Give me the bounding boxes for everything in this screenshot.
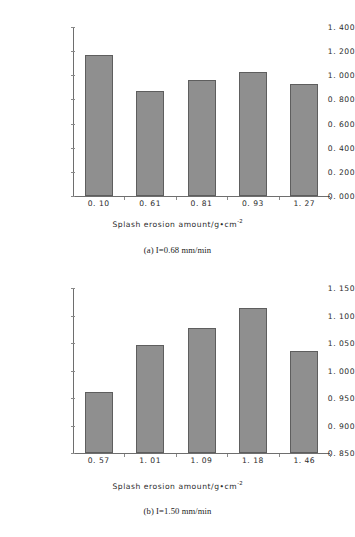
x-axis-title: Splash erosion amount/g•cm-2 xyxy=(0,480,355,491)
bar xyxy=(290,84,318,196)
y-tick-mark xyxy=(71,398,75,399)
bar xyxy=(239,72,267,196)
y-tick-label: 1. 200 xyxy=(290,47,355,56)
x-tick-mark xyxy=(330,454,331,457)
x-tick-label: 1. 27 xyxy=(293,199,315,208)
bar xyxy=(239,308,267,453)
y-tick-label: 1. 050 xyxy=(290,339,355,348)
panel-caption: (a) I=0.68 mm/min xyxy=(0,245,355,255)
y-tick-label: 1. 100 xyxy=(290,311,355,320)
bar xyxy=(136,91,164,196)
y-tick-mark xyxy=(71,27,75,28)
y-tick-mark xyxy=(71,453,75,454)
x-tick-mark xyxy=(279,197,280,200)
x-axis-title-superscript: -2 xyxy=(237,218,242,224)
x-tick-label: 1. 46 xyxy=(293,456,315,465)
x-axis-title-superscript: -2 xyxy=(237,480,242,486)
x-axis-title-text: Splash erosion amount/g•cm xyxy=(112,220,237,229)
x-tick-label: 1. 01 xyxy=(139,456,161,465)
x-tick-mark xyxy=(176,197,177,200)
bar xyxy=(85,392,113,453)
y-tick-mark xyxy=(71,75,75,76)
x-axis-title: Splash erosion amount/g•cm-2 xyxy=(0,218,355,229)
y-tick-mark xyxy=(71,316,75,317)
x-tick-mark xyxy=(330,197,331,200)
y-tick-mark xyxy=(71,172,75,173)
y-tick-mark xyxy=(71,196,75,197)
x-tick-mark xyxy=(279,454,280,457)
x-tick-label: 0. 57 xyxy=(88,456,110,465)
y-tick-mark xyxy=(71,288,75,289)
bar xyxy=(136,345,164,453)
x-tick-mark xyxy=(176,454,177,457)
x-tick-mark xyxy=(124,454,125,457)
y-tick-mark xyxy=(71,124,75,125)
y-tick-mark xyxy=(71,51,75,52)
x-axis-title-text: Splash erosion amount/g•cm xyxy=(112,482,237,491)
x-tick-label: 0. 81 xyxy=(191,199,213,208)
y-tick-mark xyxy=(71,148,75,149)
x-tick-mark xyxy=(227,454,228,457)
bar xyxy=(290,351,318,453)
y-tick-label: 1. 400 xyxy=(290,23,355,32)
x-tick-label: 0. 61 xyxy=(139,199,161,208)
figure-panel-b: Change of soil surfaceroughness/(R/R₀)0.… xyxy=(0,268,355,537)
panel-caption: (b) I=1.50 mm/min xyxy=(0,506,355,516)
figure-panel-a: Change of soil surfaceroughness/(R/R₀)0.… xyxy=(0,0,355,268)
x-tick-label: 0. 10 xyxy=(88,199,110,208)
y-tick-mark xyxy=(71,426,75,427)
x-tick-mark xyxy=(227,197,228,200)
bar xyxy=(85,55,113,196)
x-tick-label: 1. 18 xyxy=(242,456,264,465)
x-tick-mark xyxy=(124,197,125,200)
y-tick-mark xyxy=(71,371,75,372)
bar xyxy=(188,80,216,196)
y-tick-label: 1. 000 xyxy=(290,71,355,80)
x-tick-label: 0. 93 xyxy=(242,199,264,208)
y-tick-mark xyxy=(71,99,75,100)
y-tick-mark xyxy=(71,343,75,344)
bar xyxy=(188,328,216,453)
y-tick-label: 1. 150 xyxy=(290,284,355,293)
x-tick-label: 1. 09 xyxy=(191,456,213,465)
